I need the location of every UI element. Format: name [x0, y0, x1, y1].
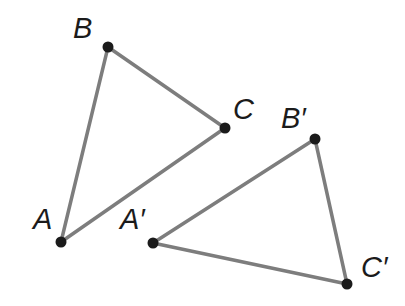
vertex-label-B: B	[73, 12, 92, 44]
edge-ab-prime	[153, 139, 315, 243]
vertex-label-C: C	[233, 93, 255, 125]
edges-group	[61, 47, 347, 284]
geometry-figure: ABCA′B′C′	[0, 0, 405, 306]
geometry-canvas: ABCA′B′C′	[0, 0, 405, 306]
vertex-label-A-prime: A′	[118, 203, 146, 235]
vertex-dot-B-prime	[310, 134, 321, 145]
vertex-dot-B	[103, 42, 114, 53]
vertex-dot-A-prime	[148, 238, 159, 249]
vertex-dot-C	[220, 123, 231, 134]
vertex-label-C-prime: C′	[361, 251, 389, 283]
vertex-dot-A	[56, 237, 67, 248]
vertex-label-A: A	[31, 203, 52, 235]
edge-bc-prime	[315, 139, 347, 284]
edge-ca-prime	[153, 243, 347, 284]
edge-bc	[108, 47, 225, 128]
vertex-label-B-prime: B′	[281, 102, 307, 134]
vertex-dot-C-prime	[342, 279, 353, 290]
